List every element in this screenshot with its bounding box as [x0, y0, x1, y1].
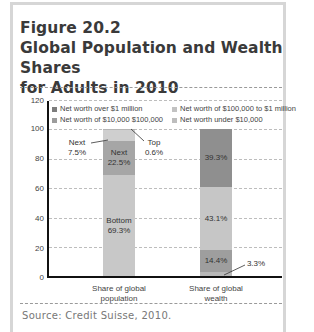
- x-label-wealth: Share of global wealth: [176, 284, 256, 304]
- label-wealth-bottom: 3.3%: [244, 259, 268, 269]
- label-population-next-small: Next 7.5%: [62, 138, 92, 158]
- source-note: Source: Credit Suisse, 2010.: [22, 310, 172, 321]
- label-population-top: Top 0.6%: [140, 138, 168, 158]
- x-label-population: Share of global population: [79, 284, 159, 304]
- source-divider: [20, 303, 282, 304]
